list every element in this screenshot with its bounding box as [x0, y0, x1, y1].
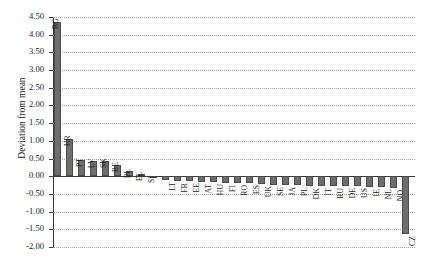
- bar-group[interactable]: CZ: [402, 17, 409, 247]
- y-tick-label: 1.50: [29, 117, 44, 127]
- bar-category-label: CZ: [408, 236, 417, 246]
- bar-category-label: PL: [123, 169, 132, 178]
- bar[interactable]: [270, 176, 277, 185]
- bar-group[interactable]: IE: [366, 17, 373, 247]
- bar-category-label: SK: [99, 158, 108, 168]
- y-tick-label: -1.00: [26, 206, 44, 216]
- bar[interactable]: [186, 176, 193, 181]
- bar-category-label: LV: [87, 158, 96, 168]
- y-tick-label: 4.50: [29, 11, 44, 21]
- bar[interactable]: [198, 176, 205, 182]
- y-tick-label: 0.00: [29, 170, 44, 180]
- bar[interactable]: [174, 176, 181, 181]
- bar[interactable]: [210, 176, 217, 182]
- y-tick-label: -1.50: [26, 223, 44, 233]
- bar-group[interactable]: SK: [102, 17, 109, 247]
- bar-group[interactable]: PL: [294, 17, 301, 247]
- bar-group[interactable]: UK: [258, 17, 265, 247]
- bar-group[interactable]: US: [354, 17, 361, 247]
- y-tick-label: 4.00: [29, 29, 44, 39]
- bar-group[interactable]: FI: [222, 17, 229, 247]
- bar-group[interactable]: HR: [66, 17, 73, 247]
- bar-category-label: SI: [147, 176, 156, 183]
- y-tick-label: 2.00: [29, 99, 44, 109]
- bar[interactable]: [54, 22, 61, 176]
- bar[interactable]: [378, 176, 385, 187]
- bar-group[interactable]: PL: [126, 17, 133, 247]
- bar[interactable]: [366, 176, 373, 187]
- bar-group[interactable]: FR: [174, 17, 181, 247]
- plot-area: BGHRPTLVSKBEPLELSILTFREEATHUFIROESUKSEJA…: [53, 17, 415, 247]
- bar[interactable]: [246, 176, 253, 183]
- bar[interactable]: [294, 176, 301, 185]
- bar[interactable]: [354, 176, 361, 186]
- bar-group[interactable]: SI: [150, 17, 157, 247]
- y-tick-label: 1.00: [29, 135, 44, 145]
- bar-category-label: HR: [63, 135, 72, 146]
- bar-group[interactable]: LT: [162, 17, 169, 247]
- bar-group[interactable]: BE: [114, 17, 121, 247]
- bar-category-label: BE: [111, 162, 120, 172]
- bar[interactable]: [222, 176, 229, 182]
- bar-group[interactable]: BG: [54, 17, 61, 247]
- gridline: [53, 247, 415, 248]
- bar-group[interactable]: RU: [330, 17, 337, 247]
- bar-group[interactable]: DE: [342, 17, 349, 247]
- bar[interactable]: [282, 176, 289, 185]
- bar-category-label: PT: [75, 158, 84, 167]
- bar[interactable]: [258, 176, 265, 184]
- bar-group[interactable]: IT: [318, 17, 325, 247]
- bar-group[interactable]: AT: [198, 17, 205, 247]
- bar[interactable]: [234, 176, 241, 183]
- bar-group[interactable]: RO: [234, 17, 241, 247]
- bar[interactable]: [390, 176, 397, 187]
- bar-chart: Deviation from mean 4.504.003.503.002.50…: [0, 0, 434, 271]
- bar-group[interactable]: SE: [270, 17, 277, 247]
- bar-group[interactable]: DK: [306, 17, 313, 247]
- y-tick-label: 3.50: [29, 46, 44, 56]
- bar-category-label: BG: [51, 19, 60, 30]
- y-tick-label: -0.50: [26, 188, 44, 198]
- bar-group[interactable]: HU: [210, 17, 217, 247]
- bar[interactable]: [330, 176, 337, 186]
- bar-group[interactable]: PT: [78, 17, 85, 247]
- bar-group[interactable]: NL: [378, 17, 385, 247]
- bar-group[interactable]: NO: [390, 17, 397, 247]
- bar[interactable]: [402, 176, 409, 234]
- bar-group[interactable]: EL: [138, 17, 145, 247]
- bar-group[interactable]: JA: [282, 17, 289, 247]
- bar[interactable]: [162, 176, 169, 180]
- bar-group[interactable]: EE: [186, 17, 193, 247]
- bar[interactable]: [342, 176, 349, 186]
- bar-series: BGHRPTLVSKBEPLELSILTFREEATHUFIROESUKSEJA…: [53, 17, 415, 247]
- y-tick-label: 2.50: [29, 82, 44, 92]
- bar[interactable]: [306, 176, 313, 186]
- bar-group[interactable]: LV: [90, 17, 97, 247]
- bar[interactable]: [318, 176, 325, 186]
- y-tick-label: 3.00: [29, 64, 44, 74]
- y-axis-ticks: 4.504.003.503.002.502.001.501.000.500.00…: [0, 17, 53, 247]
- bar-category-label: EL: [135, 172, 144, 181]
- y-tick-label: -2.00: [26, 241, 44, 251]
- bar-group[interactable]: ES: [246, 17, 253, 247]
- y-tick-label: 0.50: [29, 153, 44, 163]
